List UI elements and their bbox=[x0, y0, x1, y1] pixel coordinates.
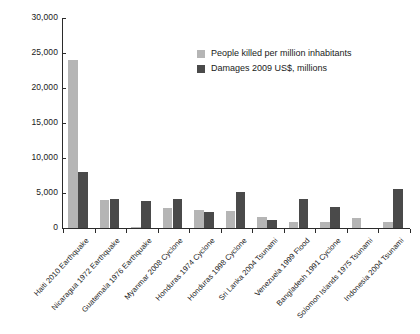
legend-label-damages: Damages 2009 US$, millions bbox=[211, 63, 327, 74]
x-axis-tick-mark bbox=[347, 229, 348, 233]
y-axis-tick-label: 5,000 bbox=[36, 187, 58, 198]
bar-group bbox=[383, 18, 403, 228]
legend-swatch-icon-people-killed bbox=[197, 50, 205, 58]
bar bbox=[204, 212, 214, 228]
bar bbox=[393, 189, 403, 228]
x-axis-tick-mark bbox=[95, 229, 96, 233]
x-axis-category-label: Honduras 1974 Cyclone bbox=[154, 236, 217, 302]
x-axis-tick-mark bbox=[315, 229, 316, 233]
legend-label-people-killed: People killed per million inhabitants bbox=[211, 48, 352, 59]
legend-item-people-killed: People killed per million inhabitants bbox=[197, 46, 352, 61]
chart-legend: People killed per million inhabitants Da… bbox=[197, 46, 352, 76]
x-axis-category-label: Haiti 2010 Earthquake bbox=[32, 236, 91, 298]
bar bbox=[299, 199, 309, 228]
bar bbox=[383, 222, 393, 228]
x-axis-tick-mark bbox=[158, 229, 159, 233]
x-axis-line bbox=[62, 228, 410, 229]
bar-chart: 05,00010,00015,00020,00025,00030,000 Hai… bbox=[0, 0, 420, 334]
bar-group bbox=[131, 18, 151, 228]
y-axis-tick-label: 10,000 bbox=[31, 152, 58, 163]
legend-swatch-icon-damages bbox=[197, 65, 205, 73]
bar bbox=[141, 201, 151, 228]
x-axis-category-label: Indonesia 2004 Tsunami bbox=[342, 236, 405, 303]
bar-group bbox=[352, 18, 372, 228]
x-axis-category-label: Myanmar 2008 Cyclone bbox=[123, 236, 185, 302]
x-axis-tick-mark bbox=[63, 229, 64, 233]
bar bbox=[226, 211, 236, 229]
x-axis-category-label: Sri Lanka 2004 Tsunami bbox=[217, 236, 280, 302]
bar bbox=[194, 210, 204, 228]
legend-item-damages: Damages 2009 US$, millions bbox=[197, 61, 352, 76]
bar bbox=[267, 220, 277, 228]
bar bbox=[330, 207, 340, 228]
bar bbox=[100, 200, 110, 228]
x-axis-category-label: Honduras 1998 Cyclone bbox=[185, 236, 248, 302]
y-axis-tick-label: 20,000 bbox=[31, 82, 58, 93]
bar bbox=[131, 227, 141, 228]
bar-group bbox=[68, 18, 88, 228]
y-axis-tick-label: 0 bbox=[53, 222, 58, 233]
y-axis-tick-label: 25,000 bbox=[31, 47, 58, 58]
bar bbox=[320, 222, 330, 228]
y-axis-tick-label: 30,000 bbox=[31, 12, 58, 23]
bar bbox=[257, 217, 267, 228]
bar bbox=[173, 199, 183, 228]
x-axis-tick-mark bbox=[126, 229, 127, 233]
x-axis-tick-mark bbox=[252, 229, 253, 233]
bar bbox=[68, 60, 78, 228]
bar-group bbox=[100, 18, 120, 228]
x-axis-tick-mark bbox=[189, 229, 190, 233]
bar-group bbox=[163, 18, 183, 228]
bar bbox=[289, 222, 299, 228]
x-axis-tick-mark bbox=[378, 229, 379, 233]
bar bbox=[110, 199, 120, 228]
x-axis-category-label: Venezuela 1999 Flood bbox=[252, 236, 311, 298]
bar bbox=[236, 192, 246, 228]
bar bbox=[78, 172, 88, 228]
x-axis-tick-mark bbox=[284, 229, 285, 233]
x-axis-category-label: Bangladesh 1991 Cyclone bbox=[275, 236, 343, 308]
bar bbox=[352, 218, 362, 229]
x-axis-tick-mark bbox=[221, 229, 222, 233]
x-axis-tick-mark bbox=[410, 229, 411, 233]
y-axis-tick-label: 15,000 bbox=[31, 117, 58, 128]
bar bbox=[163, 208, 173, 228]
